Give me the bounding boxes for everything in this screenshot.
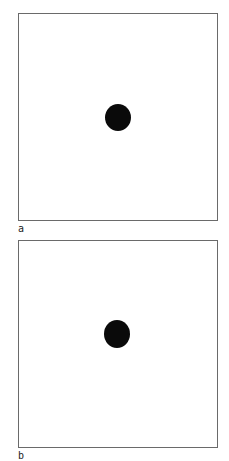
dot-b	[104, 320, 130, 348]
panel-b	[18, 240, 218, 448]
panel-label-a: a	[18, 224, 24, 234]
dot-a	[105, 104, 131, 131]
panel-label-b: b	[18, 451, 24, 461]
panel-a	[18, 13, 218, 221]
